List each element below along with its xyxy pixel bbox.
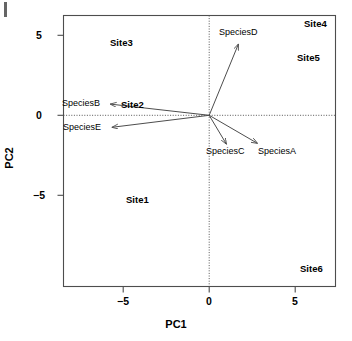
point-label-site2: Site2 <box>121 99 144 110</box>
vector-label-speciesC: SpeciesC <box>206 146 245 156</box>
vector-speciesD <box>209 44 238 115</box>
point-label-site4: Site4 <box>304 18 327 29</box>
point-label-site1: Site1 <box>126 194 149 205</box>
vector-label-speciesB: SpeciesB <box>62 98 100 108</box>
vector-speciesE <box>112 115 209 127</box>
vector-speciesC <box>209 115 226 144</box>
y-tick-label-5: 5 <box>24 29 54 41</box>
point-label-site6: Site6 <box>300 263 323 274</box>
vector-label-speciesD: SpeciesD <box>219 27 258 37</box>
y-tick-label-neg5: −5 <box>24 189 54 201</box>
x-tick-label-0: 0 <box>194 295 224 307</box>
y-axis-title: PC2 <box>3 138 15 178</box>
x-tick-label-5: 5 <box>280 295 310 307</box>
vector-label-speciesE: SpeciesE <box>63 122 101 132</box>
point-label-site3: Site3 <box>110 37 133 48</box>
vector-speciesA <box>209 115 257 143</box>
vector-label-speciesA: SpeciesA <box>258 146 296 156</box>
point-label-site5: Site5 <box>297 52 320 63</box>
x-tick-label-neg5: −5 <box>108 295 138 307</box>
x-axis-title: PC1 <box>0 318 352 330</box>
y-tick-label-0: 0 <box>24 109 54 121</box>
